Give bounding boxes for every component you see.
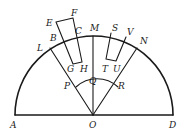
label-A: A xyxy=(9,120,17,130)
label-N: N xyxy=(139,36,149,46)
label-T: T xyxy=(102,64,109,74)
label-U: U xyxy=(113,64,121,74)
label-D: D xyxy=(168,120,176,130)
label-S: S xyxy=(112,23,118,33)
label-Q: Q xyxy=(89,76,97,86)
label-R: R xyxy=(117,81,125,91)
label-M: M xyxy=(89,23,100,33)
label-O: O xyxy=(89,120,97,130)
slot-rectangle-EFHG xyxy=(56,18,82,64)
diagram-canvas: A O D L B E F C M S V N G H T U Q P R xyxy=(0,0,185,132)
label-P: P xyxy=(63,81,71,91)
label-L: L xyxy=(36,43,43,53)
geometry-diagram: A O D L B E F C M S V N G H T U Q P R xyxy=(0,0,185,132)
radius-OL xyxy=(50,48,93,115)
label-E: E xyxy=(45,18,53,28)
label-V: V xyxy=(127,27,135,37)
label-F: F xyxy=(70,8,78,18)
radius-ON xyxy=(93,48,137,115)
label-C: C xyxy=(75,26,82,36)
label-G: G xyxy=(67,64,74,74)
label-B: B xyxy=(49,33,57,43)
label-H: H xyxy=(79,64,88,74)
